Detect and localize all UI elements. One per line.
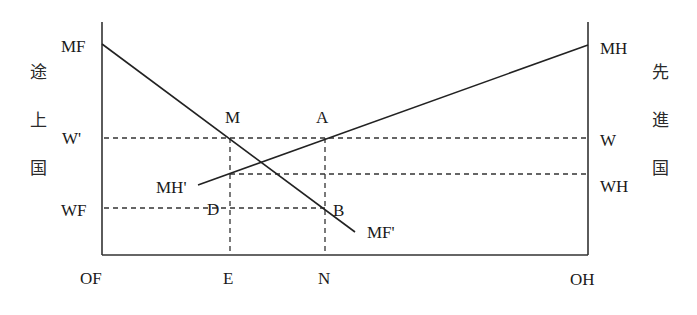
mh-label: MH — [600, 39, 627, 58]
wh-label: WH — [600, 177, 628, 196]
left-side-label-1: 途 — [30, 62, 47, 82]
left-side-label-2: 上 — [30, 110, 47, 130]
point-d-label: D — [207, 200, 219, 219]
point-a-label: A — [316, 108, 329, 127]
right-side-label-1: 先 — [652, 62, 669, 82]
e-label: E — [223, 269, 233, 288]
mh-prime-label: MH' — [156, 178, 186, 197]
w-label: W — [600, 131, 617, 150]
mf-prime-label: MF' — [367, 223, 395, 242]
mf-curve — [102, 44, 355, 232]
point-b-label: B — [333, 201, 344, 220]
mh-curve — [198, 45, 588, 185]
of-label: OF — [80, 269, 102, 288]
n-label: N — [318, 269, 330, 288]
point-m-label: M — [225, 108, 240, 127]
w-prime-label: W' — [62, 129, 81, 148]
right-side-label-3: 国 — [652, 158, 669, 178]
oh-label: OH — [570, 270, 595, 289]
wf-label: WF — [61, 201, 87, 220]
left-side-label-3: 国 — [30, 158, 47, 178]
labor-market-diagram: 途 上 国 先 進 国 MF W' WF MH W WH OF E N OH M… — [0, 0, 697, 315]
mf-label: MF — [61, 37, 86, 56]
right-side-label-2: 進 — [652, 110, 669, 130]
